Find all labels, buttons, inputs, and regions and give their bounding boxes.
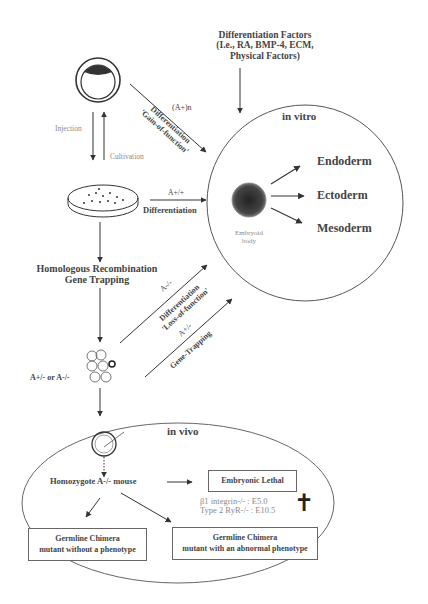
factors-line-2: (I.e., RA, BMP-4, ECM, xyxy=(200,40,330,50)
homologous-line-1: Homologous Recombination xyxy=(12,263,182,274)
petri-dish-icon xyxy=(68,185,138,217)
injection-label: Injection xyxy=(55,125,82,133)
death-cross-icon: ✝ xyxy=(294,490,314,516)
homologous-recombination-label: Homologous Recombination Gene Trapping xyxy=(12,263,182,285)
blastocyst-icon xyxy=(76,58,120,102)
in-vivo-title: in vivo xyxy=(167,425,198,437)
chimera-no-phenotype-line-1: Germline Chimera xyxy=(29,534,146,545)
embryonic-lethal-box: Embryonic Lethal xyxy=(208,470,297,492)
wt-differentiation-label: Differentiation xyxy=(143,206,197,215)
cell-cluster-icon xyxy=(87,350,115,382)
chimera-no-phenotype-line-2: mutant without a phenotype xyxy=(29,545,146,556)
embryoid-body-icon xyxy=(232,183,266,217)
mesoderm-label: Mesoderm xyxy=(317,222,372,235)
chimera-abnormal-line-1: Germline Chimera xyxy=(173,533,317,544)
cultivation-label: Cultivation xyxy=(110,153,144,161)
gain-top-label: (A+)n xyxy=(172,104,192,113)
in-vitro-title: in vitro xyxy=(282,110,316,122)
embryonic-lethal-label: Embryonic Lethal xyxy=(221,476,283,485)
ectoderm-label: Ectoderm xyxy=(317,189,368,202)
homozygote-label: Homozygote A-/- mouse xyxy=(50,477,136,486)
endoderm-label: Endoderm xyxy=(317,155,372,168)
embryoid-line-2: body xyxy=(226,238,272,246)
factors-line-1: Differentiation Factors xyxy=(200,30,330,40)
embryo-icon xyxy=(92,432,124,456)
genotype-label: A+/- or A-/- xyxy=(30,374,70,383)
wt-top-label: A+/+ xyxy=(168,189,184,197)
embryoid-body-label: Embryoid body xyxy=(226,230,272,245)
chimera-abnormal-box: Germline Chimera mutant with an abnormal… xyxy=(172,527,318,560)
homologous-line-2: Gene Trapping xyxy=(12,274,182,285)
factors-line-3: Physical Factors) xyxy=(200,51,330,61)
chimera-abnormal-line-2: mutant with an abnormal phenotype xyxy=(173,544,317,555)
lethal-example-type2-ryr: Type 2 RyR-/- : E10.5 xyxy=(200,506,275,515)
differentiation-factors-label: Differentiation Factors (I.e., RA, BMP-4… xyxy=(200,30,330,61)
chimera-no-phenotype-box: Germline Chimera mutant without a phenot… xyxy=(28,528,147,561)
lethal-examples: β1 integrin-/- : E5.0 Type 2 RyR-/- : E1… xyxy=(200,497,275,516)
